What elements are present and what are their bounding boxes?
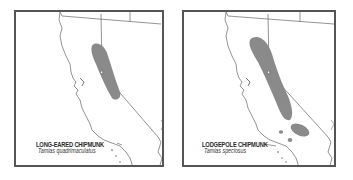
scientific-name: Tamias speciosus: [204, 148, 268, 155]
species-range-area-south: [289, 121, 312, 139]
scientific-name: Tamias quadrimaculatus: [38, 148, 104, 155]
species-range-patch: [288, 138, 293, 142]
species-range-area: [250, 37, 293, 120]
species-label: LONG-EARED CHIPMUNK Tamias quadrimaculat…: [36, 141, 119, 155]
species-range-patch: [279, 130, 283, 134]
species-range-area: [91, 44, 120, 100]
species-label: LODGEPOLE CHIPMUNK Tamias speciosus: [202, 141, 282, 155]
map-panel-long-eared-chipmunk: LONG-EARED CHIPMUNK Tamias quadrimaculat…: [14, 10, 164, 167]
map-panel-lodgepole-chipmunk: LODGEPOLE CHIPMUNK Tamias speciosus: [182, 10, 336, 167]
